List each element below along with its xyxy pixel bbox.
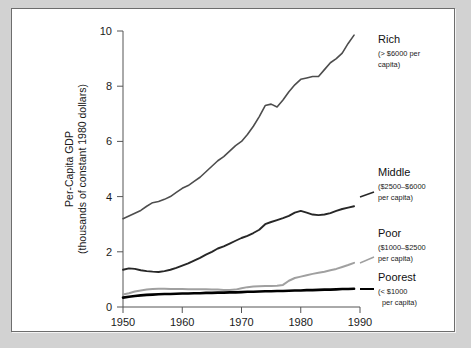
series-line-poorest: [123, 289, 354, 298]
series-label-rich: Rich: [378, 33, 400, 45]
series-sublabel-middle-2: per capita): [378, 193, 413, 202]
series-lines: [123, 35, 354, 297]
series-annotation-poorest: Poorest (< $1000 per capita): [378, 271, 417, 307]
y-tick-label-2: 2: [106, 246, 112, 258]
x-axis-ticks: [123, 307, 360, 313]
x-tick-label-1990: 1990: [348, 316, 372, 328]
figure-panel: 0 2 4 6 8 10 1950 1960 1970 1980 1990 Pe…: [11, 8, 455, 332]
series-label-poor: Poor: [378, 227, 402, 239]
x-tick-label-1970: 1970: [229, 316, 253, 328]
series-line-middle: [123, 206, 354, 272]
y-tick-label-8: 8: [106, 80, 112, 92]
series-sublabel-poorest-1: (< $1000: [378, 287, 407, 296]
screenshot-root: 0 2 4 6 8 10 1950 1960 1970 1980 1990 Pe…: [0, 0, 471, 348]
series-sublabel-rich-2: capita): [378, 60, 400, 69]
x-tick-label-1960: 1960: [170, 316, 194, 328]
series-sublabel-middle-1: ($2500–$6000: [378, 182, 426, 191]
y-tick-label-6: 6: [106, 135, 112, 147]
series-label-middle: Middle: [378, 166, 410, 178]
leader-line-middle: [360, 192, 374, 197]
series-sublabel-poor-1: ($1000–$2500: [378, 243, 426, 252]
series-sublabel-rich-1: (> $6000 per: [378, 49, 421, 58]
x-tick-label-1950: 1950: [111, 316, 135, 328]
series-annotation-poor: Poor ($1000–$2500 per capita): [378, 227, 426, 263]
series-annotation-middle: Middle ($2500–$6000 per capita): [378, 166, 426, 202]
series-label-poorest: Poorest: [378, 271, 416, 283]
y-axis-title-line2: (thousands of constant 1980 dollars): [76, 84, 88, 254]
x-tick-label-1980: 1980: [289, 316, 313, 328]
series-annotation-rich: Rich (> $6000 per capita): [378, 33, 421, 69]
annotation-leaders: [360, 192, 374, 289]
series-sublabel-poor-2: per capita): [378, 254, 413, 263]
y-tick-label-0: 0: [106, 301, 112, 313]
y-tick-label-10: 10: [100, 25, 112, 37]
series-line-rich: [123, 35, 354, 219]
series-sublabel-poorest-2: per capita): [382, 298, 417, 307]
y-tick-label-4: 4: [106, 191, 112, 203]
line-chart: 0 2 4 6 8 10 1950 1960 1970 1980 1990 Pe…: [12, 9, 454, 331]
leader-line-poor: [360, 257, 374, 263]
y-axis-ticks: [117, 31, 123, 307]
y-axis-title-line1: Per-Capita GDP: [63, 131, 75, 207]
